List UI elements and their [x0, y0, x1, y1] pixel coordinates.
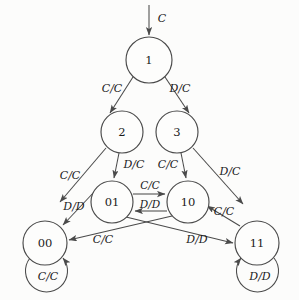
edge-2-to-01-path	[114, 153, 119, 178]
state-label-1: 1	[145, 53, 152, 67]
edge-label-00-to-01: D/D	[62, 200, 85, 213]
edge-label-10-to-00: C/C	[93, 233, 114, 246]
edge-label-2-to-00: C/C	[60, 169, 81, 182]
edge-label-1-to-3: D/C	[169, 82, 192, 95]
edge-label-10-to-01: D/D	[139, 198, 161, 210]
state-label-00: 00	[38, 236, 53, 250]
edge-3-to-10-path	[181, 153, 186, 178]
fsm-canvas: C	[0, 0, 299, 300]
self-loop-label-00: C/C	[38, 270, 59, 283]
edge-label-11-to-10: C/C	[214, 205, 235, 218]
state-label-01: 01	[105, 195, 120, 209]
start-arrow-label: C	[158, 12, 167, 25]
edge-label-3-to-11: D/C	[219, 165, 242, 178]
edge-label-2-to-01: D/C	[123, 158, 146, 171]
edge-label-3-to-10: C/C	[158, 158, 179, 171]
edge-label-01-to-11: D/D	[185, 233, 208, 246]
state-label-11: 11	[250, 236, 265, 250]
self-loop-label-11: D/D	[248, 270, 271, 283]
state-label-10: 10	[181, 195, 196, 209]
state-label-3: 3	[173, 125, 180, 139]
edge-label-1-to-2: C/C	[102, 82, 123, 95]
state-machine-diagram: C	[0, 0, 299, 300]
state-label-2: 2	[118, 125, 125, 139]
edge-label-01-to-10: C/C	[140, 179, 160, 191]
